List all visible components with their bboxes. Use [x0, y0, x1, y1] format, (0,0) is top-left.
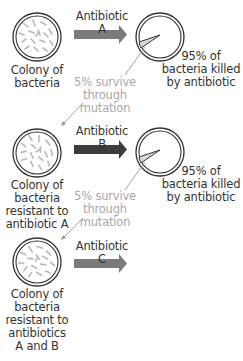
arrow-label-antibiotic-c: Antibiotic C — [72, 240, 132, 266]
survive-2-label: 5% survive through mutation — [72, 190, 138, 229]
colony-2-label: Colony of bacteria resistant to antibiot… — [0, 179, 74, 231]
colony-1-label: Colony of bacteria — [2, 64, 72, 90]
colony-1-dish — [13, 13, 61, 61]
connector-line — [125, 162, 145, 190]
arrow-label-antibiotic-b: Antibiotic B — [74, 125, 130, 151]
arrow-label-antibiotic-a: Antibiotic A — [74, 10, 130, 36]
colony-3-dish — [13, 238, 61, 286]
colony-3-label: Colony of bacteria resistant to antibiot… — [0, 288, 74, 353]
result-2-label: 95% of bacteria killed by antibiotic — [160, 165, 242, 204]
survive-1-label: 5% survive through mutation — [72, 76, 138, 115]
result-1-label: 95% of bacteria killed by antibiotic — [160, 50, 242, 89]
colony-2-dish — [13, 129, 61, 177]
connector-line — [125, 47, 145, 75]
